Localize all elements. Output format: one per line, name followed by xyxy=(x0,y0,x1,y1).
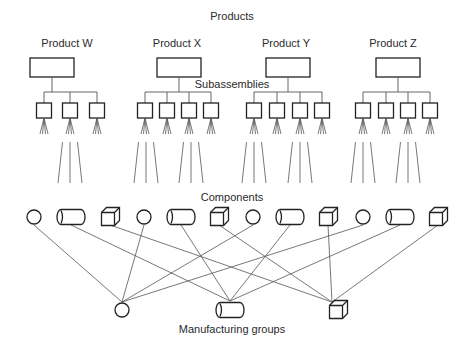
spread-line xyxy=(351,142,356,183)
subassembly-box xyxy=(204,103,219,118)
product-box xyxy=(30,58,74,77)
component-cylinder-icon xyxy=(57,210,85,225)
component-link xyxy=(110,225,332,302)
subassembly-box xyxy=(63,103,78,118)
subassemblies-label: Subassemblies xyxy=(195,78,270,90)
component-link xyxy=(122,225,253,302)
component-cylinder-icon xyxy=(276,210,304,225)
spread-line xyxy=(134,142,139,183)
components-layer xyxy=(27,208,448,226)
mfg-cylinder-icon xyxy=(216,303,244,318)
spread-line xyxy=(179,142,184,183)
components-label: Components xyxy=(201,191,264,203)
subassembly-box xyxy=(37,103,52,118)
component-link xyxy=(34,225,122,302)
product-box xyxy=(266,58,310,77)
product-w: Product W xyxy=(30,37,105,134)
component-group-2 xyxy=(137,208,229,226)
spread-line xyxy=(58,142,63,183)
product-label: Product X xyxy=(153,37,202,49)
component-link xyxy=(332,225,438,302)
spread-line xyxy=(308,142,313,183)
product-label: Product W xyxy=(41,37,93,49)
component-circle-icon xyxy=(246,210,260,224)
subassembly-box xyxy=(315,103,330,118)
spread-line xyxy=(199,142,204,183)
subassembly-box xyxy=(182,103,197,118)
product-box xyxy=(157,58,201,77)
subassembly-box xyxy=(379,103,394,118)
component-cube-icon xyxy=(320,208,338,226)
subassembly-box xyxy=(138,103,153,118)
component-circle-icon xyxy=(137,210,151,224)
manufacturing-groups-layer xyxy=(115,301,348,319)
component-cylinder-icon xyxy=(167,210,195,225)
diagram-title: Products xyxy=(210,10,254,22)
component-cylinder-icon xyxy=(386,210,414,225)
bom-diagram: Products Product WProduct XProduct YProd… xyxy=(0,0,464,339)
component-group-4 xyxy=(356,208,448,226)
subassembly-box xyxy=(423,103,438,118)
component-link xyxy=(122,225,363,302)
component-cube-icon xyxy=(102,208,120,226)
spread-line xyxy=(154,142,159,183)
subassembly-box xyxy=(293,103,308,118)
spread-line xyxy=(371,142,376,183)
component-group-1 xyxy=(27,208,120,226)
product-z: Product Z xyxy=(356,37,438,134)
component-cube-icon xyxy=(430,208,448,226)
subassembly-box xyxy=(356,103,371,118)
product-label: Product Z xyxy=(369,37,417,49)
spread-line xyxy=(416,142,421,183)
product-box xyxy=(376,58,420,77)
mfg-cube-icon xyxy=(330,301,348,319)
component-link xyxy=(219,225,332,302)
component-to-group-links xyxy=(34,225,438,302)
component-group-3 xyxy=(246,208,338,226)
spread-line xyxy=(242,142,247,183)
component-circle-icon xyxy=(356,210,370,224)
subassembly-box xyxy=(401,103,416,118)
component-link xyxy=(230,225,290,301)
component-link xyxy=(328,225,332,302)
spread-line xyxy=(288,142,293,183)
mfg-circle-icon xyxy=(115,303,129,317)
component-link xyxy=(230,225,400,301)
subassembly-box xyxy=(247,103,262,118)
component-link xyxy=(71,225,230,301)
component-link xyxy=(122,225,144,302)
subassembly-box xyxy=(90,103,105,118)
manufacturing-groups-label: Manufacturing groups xyxy=(179,323,286,335)
subassembly-box xyxy=(160,103,175,118)
component-cube-icon xyxy=(211,208,229,226)
spread-line xyxy=(396,142,401,183)
spread-line xyxy=(78,142,83,183)
subassembly-box xyxy=(270,103,285,118)
component-circle-icon xyxy=(27,210,41,224)
component-spread-lines xyxy=(58,142,420,183)
product-label: Product Y xyxy=(262,37,311,49)
spread-line xyxy=(262,142,267,183)
